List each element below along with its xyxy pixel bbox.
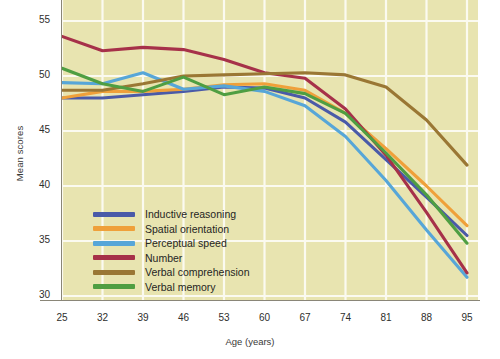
legend-color-swatch [93, 212, 135, 217]
x-axis-tick-label: 60 [245, 312, 285, 323]
legend-color-swatch [93, 226, 135, 231]
x-axis-tick-label: 67 [285, 312, 325, 323]
figure-caption [6, 350, 498, 359]
x-axis-tick-label: 88 [407, 312, 447, 323]
x-axis-tick-label: 53 [204, 312, 244, 323]
x-axis-tick-labels: 2532394653606774818895 [0, 312, 500, 328]
legend-item: Inductive reasoning [93, 207, 249, 222]
legend-item-label: Perceptual speed [145, 237, 227, 249]
legend-item: Perceptual speed [93, 236, 249, 251]
y-axis-tick-label: 50 [10, 69, 50, 80]
legend-item: Number [93, 251, 249, 266]
y-axis-line [61, 0, 62, 301]
y-axis-tick-label: 35 [10, 234, 50, 245]
x-axis-tick-label: 32 [83, 312, 123, 323]
legend-item-label: Inductive reasoning [145, 208, 236, 220]
x-axis-line [40, 300, 480, 301]
figure: 555045403530 2532394653606774818895 Mean… [0, 0, 500, 359]
legend-color-swatch [93, 241, 135, 246]
legend-item-label: Verbal comprehension [145, 266, 249, 278]
y-axis-title: Mean scores [14, 109, 25, 199]
legend-item-label: Verbal memory [145, 281, 216, 293]
legend-item: Verbal memory [93, 280, 249, 295]
x-axis-tick-label: 95 [447, 312, 487, 323]
y-axis-tick-label: 55 [10, 14, 50, 25]
legend-item-label: Spatial orientation [145, 223, 229, 235]
legend-color-swatch [93, 255, 135, 260]
x-axis-tick-label: 81 [366, 312, 406, 323]
y-axis-tick-label: 30 [10, 289, 50, 300]
x-axis-tick-label: 46 [164, 312, 204, 323]
legend-color-swatch [93, 270, 135, 275]
legend-color-swatch [93, 284, 135, 289]
x-axis-tick-label: 39 [123, 312, 163, 323]
x-axis-title: Age (years) [0, 336, 500, 347]
x-axis-tick-label: 25 [42, 312, 82, 323]
chart-legend: Inductive reasoningSpatial orientationPe… [93, 207, 249, 294]
legend-item-label: Number [145, 252, 182, 264]
x-axis-tick-label: 74 [326, 312, 366, 323]
legend-item: Spatial orientation [93, 222, 249, 237]
legend-item: Verbal comprehension [93, 265, 249, 280]
